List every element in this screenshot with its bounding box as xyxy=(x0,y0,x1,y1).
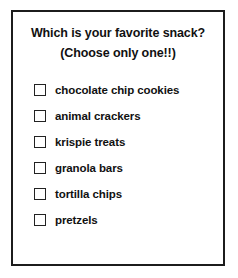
survey-question-title: Which is your favorite snack? xyxy=(13,23,223,43)
checkbox-unchecked-icon[interactable] xyxy=(34,110,46,122)
survey-heading: Which is your favorite snack? (Choose on… xyxy=(13,12,223,63)
checkbox-unchecked-icon[interactable] xyxy=(34,136,46,148)
survey-question-subtitle: (Choose only one!!) xyxy=(13,43,223,63)
option-label: granola bars xyxy=(55,162,123,175)
option-row-animal-crackers[interactable]: animal crackers xyxy=(34,103,223,129)
option-label: chocolate chip cookies xyxy=(55,84,179,97)
option-row-granola-bars[interactable]: granola bars xyxy=(34,155,223,181)
checkbox-unchecked-icon[interactable] xyxy=(34,188,46,200)
option-label: pretzels xyxy=(55,214,98,227)
option-row-krispie-treats[interactable]: krispie treats xyxy=(34,129,223,155)
option-row-chocolate-chip-cookies[interactable]: chocolate chip cookies xyxy=(34,77,223,103)
option-row-tortilla-chips[interactable]: tortilla chips xyxy=(34,181,223,207)
option-label: krispie treats xyxy=(55,136,125,149)
survey-card: Which is your favorite snack? (Choose on… xyxy=(11,10,225,266)
option-label: animal crackers xyxy=(55,110,140,123)
checkbox-unchecked-icon[interactable] xyxy=(34,84,46,96)
survey-options-list: chocolate chip cookies animal crackers k… xyxy=(13,77,223,233)
checkbox-unchecked-icon[interactable] xyxy=(34,214,46,226)
option-label: tortilla chips xyxy=(55,188,122,201)
checkbox-unchecked-icon[interactable] xyxy=(34,162,46,174)
option-row-pretzels[interactable]: pretzels xyxy=(34,207,223,233)
